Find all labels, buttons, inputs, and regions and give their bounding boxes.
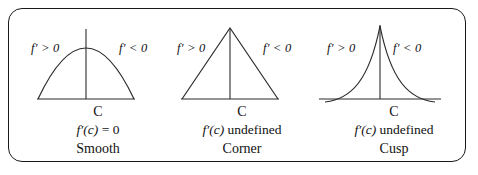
derivative-condition-cusp: f′(c) undefined (318, 120, 470, 139)
captions-smooth: C f′(c) = 0 Smooth (23, 103, 173, 158)
captions-cusp: C f′(c) undefined Cusp (318, 103, 470, 158)
plot-smooth: f′ > 0 f′ < 0 (23, 19, 173, 111)
label-derivative-positive: f′ > 0 (31, 41, 59, 56)
derivative-expression: f′(c) (354, 122, 376, 137)
kind-label-cusp: Cusp (318, 139, 470, 158)
plot-corner: f′ > 0 f′ < 0 (167, 19, 317, 111)
label-derivative-negative: f′ < 0 (393, 41, 421, 56)
cusp-curve-svg (311, 19, 463, 111)
panel-cusp: f′ > 0 f′ < 0 C f′(c) undefined Cusp (311, 19, 463, 155)
critical-point-label: C (23, 103, 173, 120)
derivative-expression: f′(c) (202, 122, 224, 137)
derivative-value: undefined (376, 122, 433, 137)
smooth-curve-svg (23, 19, 173, 111)
figure-rounded-border: f′ > 0 f′ < 0 C f′(c) = 0 Smooth f′ > 0 (8, 8, 466, 162)
corner-curve-svg (167, 19, 317, 111)
derivative-value: undefined (224, 122, 281, 137)
panel-smooth: f′ > 0 f′ < 0 C f′(c) = 0 Smooth (23, 19, 173, 155)
figure-container: f′ > 0 f′ < 0 C f′(c) = 0 Smooth f′ > 0 (0, 0, 478, 175)
cusp-curve-left (325, 26, 380, 102)
cusp-curve-right (380, 26, 435, 102)
label-derivative-positive: f′ > 0 (177, 41, 205, 56)
plot-cusp: f′ > 0 f′ < 0 (311, 19, 463, 111)
kind-label-corner: Corner (167, 139, 317, 158)
label-derivative-negative: f′ < 0 (263, 41, 291, 56)
critical-point-label: C (318, 103, 470, 120)
kind-label-smooth: Smooth (23, 139, 173, 158)
derivative-condition-smooth: f′(c) = 0 (23, 120, 173, 139)
critical-point-label: C (167, 103, 317, 120)
panel-corner: f′ > 0 f′ < 0 C f′(c) undefined Corner (167, 19, 317, 155)
derivative-expression: f′(c) (77, 122, 99, 137)
captions-corner: C f′(c) undefined Corner (167, 103, 317, 158)
label-derivative-positive: f′ > 0 (327, 41, 355, 56)
label-derivative-negative: f′ < 0 (119, 41, 147, 56)
derivative-condition-corner: f′(c) undefined (167, 120, 317, 139)
derivative-value: = 0 (98, 122, 119, 137)
